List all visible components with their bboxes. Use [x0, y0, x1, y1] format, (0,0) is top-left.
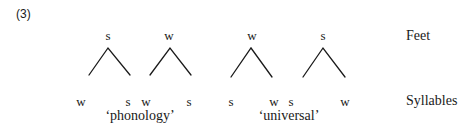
foot-branch-1 — [89, 48, 130, 75]
metrical-tree-lines — [0, 0, 472, 127]
foot-branch-4 — [303, 48, 345, 77]
feet-tier-label: Feet — [406, 29, 430, 43]
syllable-2: s — [125, 95, 130, 108]
syllable-4: s — [186, 95, 191, 108]
syllable-3: w — [141, 95, 150, 108]
word-phonology: ‘phonology’ — [105, 109, 174, 123]
foot-branch-3 — [231, 48, 272, 77]
foot-label-4: s — [320, 29, 325, 42]
syllable-1: w — [76, 95, 85, 108]
syllable-7: s — [288, 95, 293, 108]
word-universal: ‘universal’ — [259, 109, 320, 123]
foot-label-1: s — [105, 29, 110, 42]
syllable-8: w — [340, 95, 349, 108]
syllables-tier-label: Syllables — [406, 94, 457, 108]
foot-branch-2 — [150, 48, 191, 75]
syllable-5: s — [228, 95, 233, 108]
foot-label-2: w — [164, 29, 173, 42]
foot-label-3: w — [247, 29, 256, 42]
syllable-6: w — [269, 95, 278, 108]
